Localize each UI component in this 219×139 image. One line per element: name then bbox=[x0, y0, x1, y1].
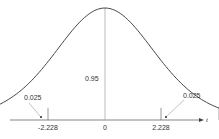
t-distribution-chart: 0.95 0.025 0.025 -2.228 0 2.228 t bbox=[0, 0, 219, 139]
left-tail-label: 0.025 bbox=[24, 94, 42, 101]
left-tail-leader-line bbox=[29, 103, 40, 116]
right-tail-leader-line bbox=[167, 100, 184, 116]
x-axis-arrow-icon bbox=[199, 118, 204, 122]
x-axis-label: t bbox=[206, 116, 209, 124]
left-tail-dot bbox=[40, 116, 42, 118]
density-curve bbox=[0, 8, 219, 119]
right-tail-label: 0.025 bbox=[183, 92, 201, 99]
x-tick-right: 2.228 bbox=[152, 124, 170, 131]
x-tick-center: 0 bbox=[103, 124, 107, 131]
x-tick-left: -2.228 bbox=[38, 124, 58, 131]
right-tail-shaded-area bbox=[218, 108, 219, 120]
center-area-label: 0.95 bbox=[85, 75, 99, 82]
right-tail-dot bbox=[165, 116, 167, 118]
